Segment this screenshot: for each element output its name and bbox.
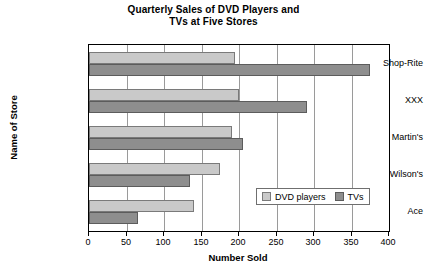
x-axis-title: Number Sold — [88, 252, 388, 263]
bar-tvs-martin-s — [89, 138, 243, 150]
bar-dvd-players-wilson-s — [89, 163, 220, 175]
x-axis-tick — [351, 231, 352, 236]
legend-entry-dvd-players: DVD players — [262, 192, 326, 202]
chart-title-line-1: Quarterly Sales of DVD Players and — [128, 4, 300, 15]
bar-chart: Quarterly Sales of DVD Players and TVs a… — [0, 0, 427, 273]
legend: DVD players TVs — [256, 188, 370, 205]
x-axis-tick-label: 400 — [368, 237, 408, 248]
chart-title-line-2: TVs at Five Stores — [0, 16, 427, 28]
y-axis-tick-label-ace: Ace — [343, 206, 427, 217]
bar-dvd-players-martin-s — [89, 126, 232, 138]
bar-dvd-players-shop-rite — [89, 52, 235, 64]
bar-tvs-xxx — [89, 101, 307, 113]
x-axis-tick-label: 50 — [106, 237, 146, 248]
x-axis-tick — [201, 231, 202, 236]
x-axis-tick-label: 200 — [218, 237, 258, 248]
x-axis-tick — [88, 231, 89, 236]
y-axis-title: Name of Store — [8, 68, 19, 188]
legend-swatch-icon-dvd-players — [262, 192, 271, 201]
y-axis-tick-label-martin-s: Martin's — [343, 132, 427, 143]
x-axis-tick-label: 300 — [293, 237, 333, 248]
legend-label-dvd-players: DVD players — [275, 192, 326, 202]
x-axis-tick-label: 150 — [181, 237, 221, 248]
y-axis-tick-label-wilson-s: Wilson's — [343, 169, 427, 180]
y-axis-tick-label-shop-rite: Shop-Rite — [343, 58, 427, 69]
bar-tvs-ace — [89, 212, 138, 224]
legend-label-tvs: TVs — [348, 192, 364, 202]
x-axis-tick-label: 100 — [143, 237, 183, 248]
x-axis-tick — [238, 231, 239, 236]
x-axis-tick-label: 0 — [68, 237, 108, 248]
bar-dvd-players-xxx — [89, 89, 239, 101]
x-axis-tick — [313, 231, 314, 236]
x-axis-tick-label: 250 — [256, 237, 296, 248]
x-axis-tick-label: 350 — [331, 237, 371, 248]
chart-title: Quarterly Sales of DVD Players and TVs a… — [0, 4, 427, 28]
legend-entry-tvs: TVs — [335, 192, 364, 202]
bar-tvs-shop-rite — [89, 64, 370, 76]
x-axis-tick — [126, 231, 127, 236]
bar-dvd-players-ace — [89, 200, 194, 212]
bar-tvs-wilson-s — [89, 175, 190, 187]
x-axis-tick — [163, 231, 164, 236]
x-axis-tick — [276, 231, 277, 236]
legend-swatch-icon-tvs — [335, 192, 344, 201]
x-axis-tick — [388, 231, 389, 236]
y-axis-tick-label-xxx: XXX — [343, 95, 427, 106]
